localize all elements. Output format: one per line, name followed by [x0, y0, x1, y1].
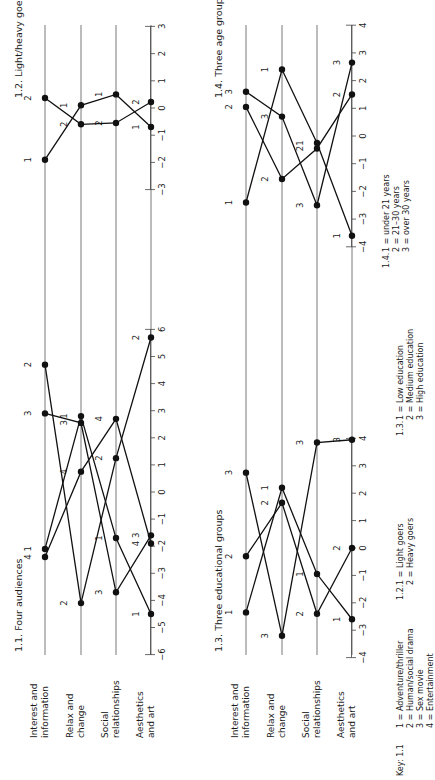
data-point — [42, 95, 48, 101]
data-point — [314, 611, 320, 617]
category-label: Social — [301, 711, 311, 738]
point-label: 2 — [23, 362, 33, 367]
axis-tick-label: 3 — [358, 50, 368, 55]
axis-tick-label: −3 — [157, 183, 167, 196]
point-label: 2 — [59, 600, 69, 605]
axis-tick-label: −3 — [157, 567, 167, 580]
point-label: 2 — [131, 335, 141, 340]
point-label: 1 — [131, 611, 141, 616]
data-point — [78, 413, 84, 419]
key-entry: 3 = over 30 years — [402, 180, 411, 252]
point-label: 2 — [260, 500, 270, 505]
point-label: 1 — [23, 546, 33, 551]
point-label: 2 — [94, 120, 104, 125]
point-label: 3 — [295, 440, 305, 445]
key-group-id: 1.4. — [382, 253, 391, 268]
point-label: 2 — [260, 176, 270, 181]
axis-tick-label: 1 — [157, 462, 167, 467]
category-labels-right: Interest andinformationRelax andchangeSo… — [230, 680, 357, 738]
data-point — [113, 120, 119, 126]
data-point — [279, 485, 285, 491]
data-point — [243, 88, 249, 94]
point-label: 1 — [94, 92, 104, 97]
data-point — [279, 113, 285, 119]
panel-three-educational-groups: 1.3. Three educational groups−4−3−2−1012… — [213, 25, 368, 664]
axis-tick-label: 0 — [358, 545, 368, 550]
point-label: 3 — [131, 533, 141, 538]
key-entry: 1 = under 21 years — [382, 174, 391, 252]
point-label: 4 — [59, 469, 69, 474]
category-label: change — [76, 704, 86, 738]
point-label: 1 — [23, 157, 33, 162]
category-label: and art — [347, 705, 357, 738]
key-entry: 2 = Heavy goers — [406, 518, 415, 585]
key-entry: 1 = Low education — [396, 345, 405, 420]
legend-key: Key: 1.11 = Adventure/thriller2 = Human/… — [382, 174, 435, 776]
axis-tick-label: 2 — [157, 435, 167, 440]
category-label: information — [241, 686, 251, 738]
panel-title: 1.3. Three educational groups — [213, 509, 224, 652]
data-point — [349, 233, 355, 239]
key-entry: 3 = Sex movie — [416, 669, 425, 728]
data-point — [243, 553, 249, 559]
data-point — [279, 632, 285, 638]
key-group-id: 1.3. — [396, 421, 405, 436]
point-label: 2 — [131, 99, 141, 104]
key-entry: 2 = 21–30 years — [392, 186, 401, 252]
axis-tick-label: −4 — [358, 241, 368, 254]
axis-tick-label: 4 — [358, 22, 368, 27]
axis-tick-label: 0 — [157, 489, 167, 494]
data-point — [148, 540, 154, 546]
point-label: 2 — [332, 92, 342, 97]
data-point — [113, 535, 119, 541]
data-point — [78, 468, 84, 474]
axis-tick-label: −4 — [157, 594, 167, 607]
point-label: 1 — [260, 485, 270, 490]
category-label: relationships — [111, 680, 121, 738]
point-label: 3 — [224, 470, 234, 475]
axis-tick-label: −3 — [358, 624, 368, 637]
axis-tick-label: 0 — [358, 133, 368, 138]
data-point — [314, 202, 320, 208]
axis-tick-label: 3 — [157, 24, 167, 29]
data-point — [42, 361, 48, 367]
category-label: Relax and — [266, 693, 276, 738]
category-label: change — [277, 704, 287, 738]
panel-title: 1.4. Three age groups — [213, 0, 224, 98]
axis-tick-label: −1 — [358, 157, 368, 170]
series-line-2 — [246, 94, 352, 178]
data-point — [113, 416, 119, 422]
axis-tick-label: −3 — [358, 213, 368, 226]
data-point — [42, 410, 48, 416]
data-point — [314, 439, 320, 445]
point-label: 2 — [59, 122, 69, 127]
axis-tick-label: 4 — [358, 436, 368, 441]
point-label: 1 — [131, 124, 141, 129]
point-label: 3 — [224, 89, 234, 94]
key-group-id: 1.2. — [396, 585, 405, 600]
data-point — [78, 121, 84, 127]
axis-tick-label: −2 — [358, 185, 368, 198]
key-entry: 2 = Medium education — [406, 329, 415, 420]
axis-tick-label: −4 — [358, 651, 368, 664]
panel-light-heavy-goers: 1.2. Light/heavy goers−3−2−1012311112222 — [13, 0, 167, 196]
axis-tick-label: 2 — [358, 78, 368, 83]
axis-tick-label: 1 — [358, 106, 368, 111]
point-label: 3 — [260, 633, 270, 638]
data-point — [349, 59, 355, 65]
axis-tick-label: 1 — [358, 518, 368, 523]
data-point — [314, 571, 320, 577]
point-label: 2 — [224, 554, 234, 559]
axis-tick-label: 2 — [157, 51, 167, 56]
point-label: 1 — [295, 140, 305, 145]
point-label: 1 — [94, 535, 104, 540]
axis-tick-label: −6 — [157, 648, 167, 661]
axis-tick-label: 2 — [358, 490, 368, 495]
category-label: Aesthetics — [135, 691, 145, 738]
category-label: information — [40, 686, 50, 738]
axis-tick-label: 1 — [157, 78, 167, 83]
data-point — [314, 145, 320, 151]
point-label: 4 — [131, 541, 141, 546]
data-point — [349, 91, 355, 97]
data-point — [148, 124, 154, 130]
